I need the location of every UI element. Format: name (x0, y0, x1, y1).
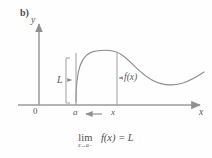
function-curve (76, 50, 204, 102)
function-label-fx: f(x) (124, 73, 137, 83)
limit-operator: lim x→a− (78, 132, 92, 143)
y-axis-label: y (31, 16, 35, 26)
origin-label: 0 (33, 107, 38, 116)
value-label-L: L (57, 75, 63, 85)
L-bracket (66, 58, 70, 103)
tick-label-x: x (111, 108, 115, 117)
x-axis-label: x (199, 108, 203, 118)
panel-label: b) (20, 8, 29, 18)
limit-body: f(x) = L (101, 132, 134, 143)
tick-label-a: a (73, 108, 78, 117)
limit-subscript: x→a− (78, 142, 92, 148)
limit-expression: lim x→a− f(x) = L (0, 132, 212, 143)
limit-figure-panel: b) y x 0 a x L f(x) lim x→a− f(x) = L (0, 0, 212, 158)
